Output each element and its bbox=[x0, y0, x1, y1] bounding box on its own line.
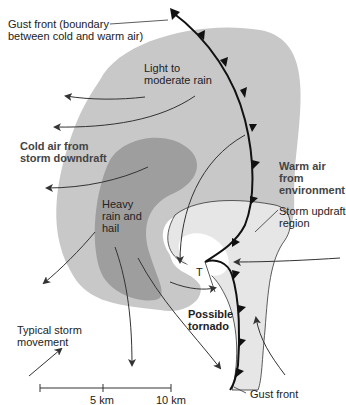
movement-label: Typical storm movement bbox=[17, 324, 82, 348]
svg-text:T: T bbox=[196, 266, 203, 278]
tornado-label: Possible tornado bbox=[188, 308, 233, 332]
scale-10km-label: 10 km bbox=[156, 394, 186, 405]
cold-air-label: Cold air from storm downdraft bbox=[20, 140, 107, 164]
gust-front-top-label: Gust front (boundary between cold and wa… bbox=[8, 18, 143, 42]
gust-front-bottom-label: Gust front bbox=[250, 388, 298, 400]
warm-air-label: Warm air from environment bbox=[279, 160, 345, 196]
heavy-rain-label: Heavy rain and hail bbox=[102, 198, 142, 234]
scale-bar bbox=[40, 384, 171, 392]
scale-5km-label: 5 km bbox=[90, 394, 114, 405]
updraft-label: Storm updraft region bbox=[279, 205, 346, 229]
light-rain-label: Light to moderate rain bbox=[144, 62, 212, 86]
